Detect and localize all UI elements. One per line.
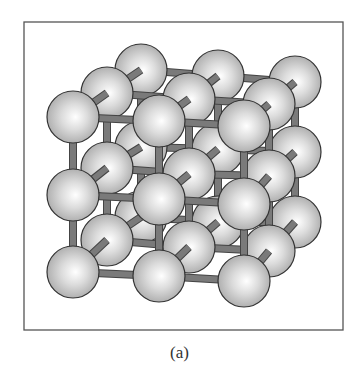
atom-sphere bbox=[47, 169, 99, 221]
crystal-lattice bbox=[47, 44, 321, 307]
atom-sphere bbox=[218, 178, 270, 230]
atom-sphere bbox=[133, 250, 185, 302]
atom-sphere bbox=[47, 91, 99, 143]
lattice-figure bbox=[0, 0, 359, 377]
atom-sphere bbox=[133, 95, 185, 147]
atom-sphere bbox=[133, 173, 185, 225]
atom-sphere bbox=[218, 255, 270, 307]
atom-sphere bbox=[47, 246, 99, 298]
atom-sphere bbox=[218, 100, 270, 152]
figure-caption: (a) bbox=[0, 343, 359, 363]
